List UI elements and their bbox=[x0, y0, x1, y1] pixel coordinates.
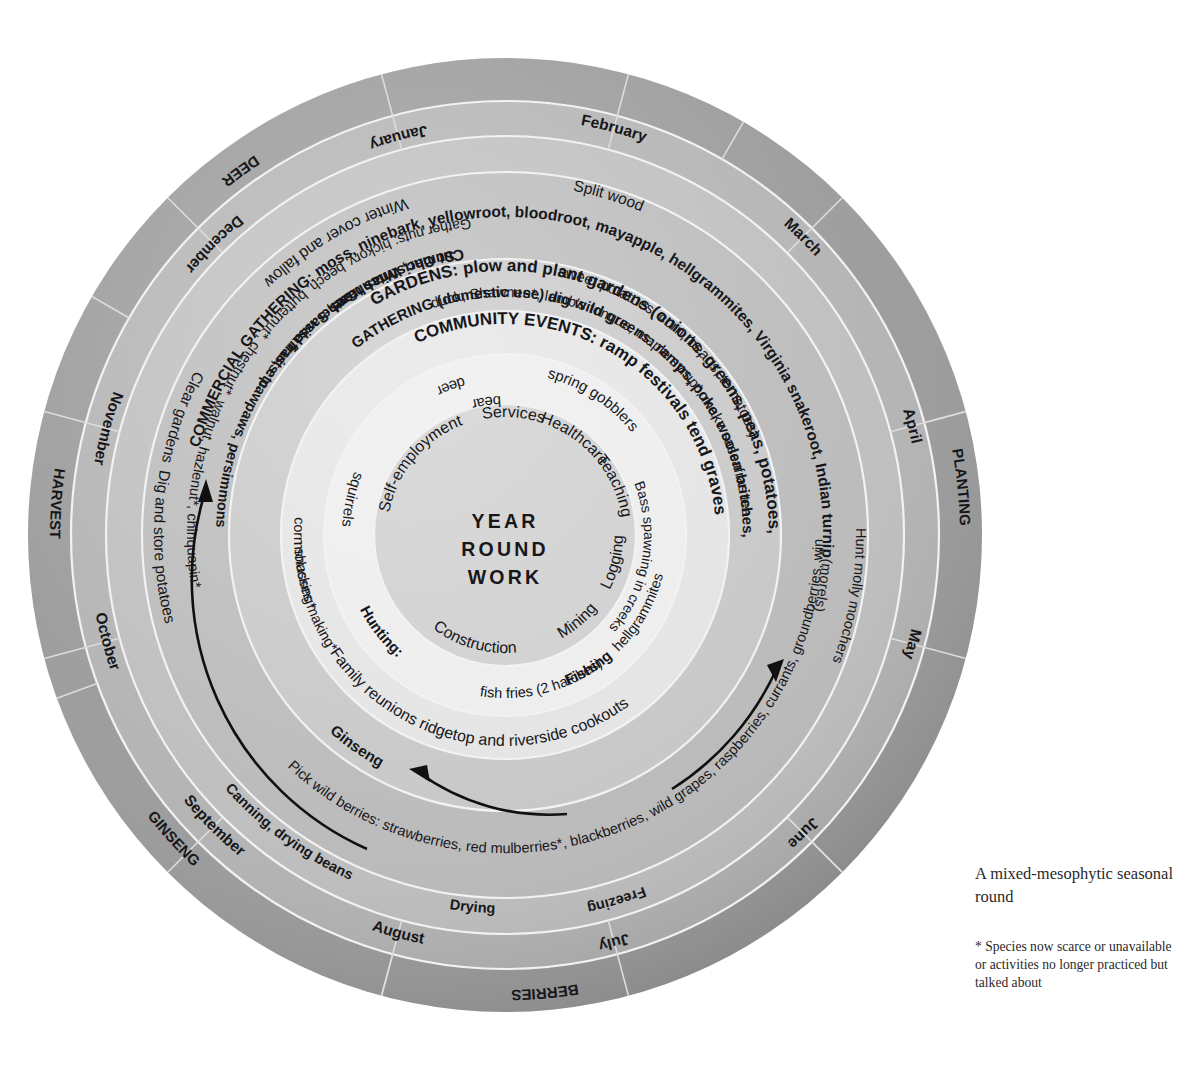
center-label: YEAR ROUND WORK bbox=[461, 510, 549, 588]
seasonal-round-figure: DEERPLANTINGBERRIESGINSENGHARVEST Januar… bbox=[0, 0, 1203, 1070]
center-line-2: ROUND bbox=[461, 538, 549, 560]
seasonal-round-wheel: DEERPLANTINGBERRIESGINSENGHARVEST Januar… bbox=[0, 0, 1203, 1070]
center-line-1: YEAR bbox=[472, 510, 539, 532]
center-line-3: WORK bbox=[468, 566, 543, 588]
legend-title: A mixed-mesophytic seasonal round bbox=[975, 862, 1185, 909]
legend-footnote: * Species now scarce or unavailable or a… bbox=[975, 938, 1185, 992]
